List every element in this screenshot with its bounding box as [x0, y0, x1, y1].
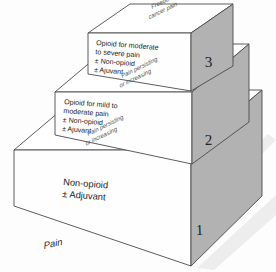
step-number-1: 1	[196, 222, 204, 238]
step-1-front-face	[14, 150, 191, 266]
step-number-3-text: 3	[205, 54, 213, 70]
baseline-label: Pain	[43, 236, 63, 251]
baseline-label-text: Pain	[43, 236, 63, 251]
who-analgesic-ladder-diagram: Freedom from cancer pain Opioid for mode…	[0, 0, 276, 272]
ladder-canvas: Freedom from cancer pain Opioid for mode…	[0, 0, 276, 272]
step-number-2: 2	[205, 132, 213, 148]
step-number-3: 3	[205, 54, 213, 70]
step-number-2-text: 2	[205, 132, 213, 148]
step-number-1-text: 1	[196, 222, 204, 238]
